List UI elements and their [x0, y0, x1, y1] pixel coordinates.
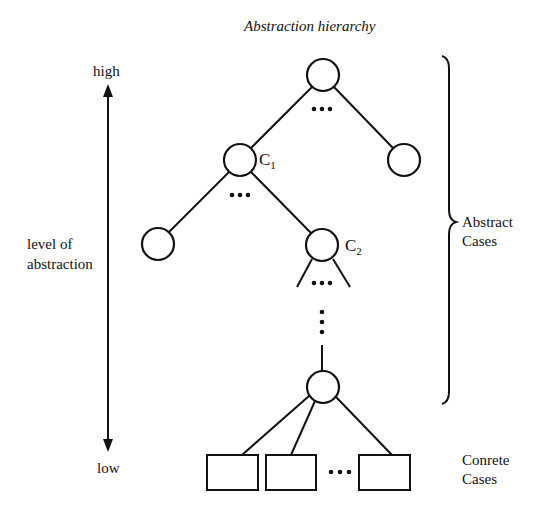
axis-label-line2: abstraction [27, 256, 93, 273]
tree-edges [169, 87, 393, 455]
node-c1-subscript: 1 [270, 159, 276, 171]
concrete-case-box [266, 455, 316, 490]
node-c2-letter: C [345, 236, 356, 255]
node-c2-subscript: 2 [356, 245, 362, 257]
node-c1-letter: C [259, 150, 270, 169]
bottom-abstract-node [307, 371, 339, 403]
node-c2-label: C2 [345, 237, 362, 256]
abstract-cases-label-line1: Abstract [462, 214, 513, 231]
arrow-down-icon [103, 439, 113, 452]
arrow-up-icon [103, 84, 113, 97]
axis-low-label: low [97, 460, 120, 477]
concrete-case-box [207, 455, 258, 490]
level-axis-arrow [103, 84, 113, 452]
concrete-case-box [359, 455, 410, 490]
node-c2 [306, 229, 338, 261]
axis-high-label: high [93, 63, 120, 80]
concrete-cases-label-line1: Conrete [462, 452, 509, 469]
concrete-cases-label-line2: Cases [462, 471, 497, 488]
node-c1-label: C1 [259, 151, 276, 170]
node-c1 [224, 144, 256, 176]
root-node [307, 59, 339, 91]
concrete-cases [207, 455, 410, 490]
tree-nodes [142, 59, 420, 403]
axis-label-line1: level of [27, 236, 72, 253]
abstract-cases-brace [442, 56, 456, 404]
left-leaf-node [142, 228, 174, 260]
right-node [388, 144, 420, 176]
abstract-cases-label-line2: Cases [462, 233, 497, 250]
